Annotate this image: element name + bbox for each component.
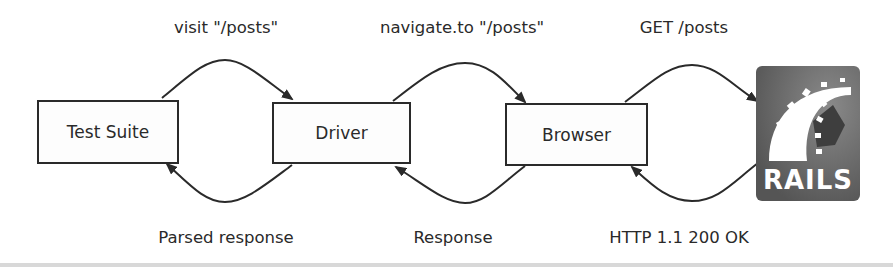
- bottom-divider: [0, 263, 893, 267]
- node-browser-label: Browser: [542, 125, 611, 145]
- arrow-http-ok: [632, 163, 758, 201]
- node-browser: Browser: [505, 103, 648, 166]
- edge-label-response: Response: [413, 228, 492, 247]
- edge-label-http-ok: HTTP 1.1 200 OK: [609, 228, 749, 247]
- arrow-visit: [162, 60, 292, 99]
- arrow-response: [396, 166, 525, 203]
- edge-label-navigate: navigate.to "/posts": [380, 18, 544, 37]
- rails-logo: RAILS: [755, 65, 861, 202]
- node-driver: Driver: [272, 102, 411, 164]
- svg-text:RAILS: RAILS: [763, 165, 853, 195]
- edge-label-parsed-response: Parsed response: [158, 228, 294, 247]
- rails-logo-icon: RAILS: [755, 65, 861, 202]
- arrow-navigate: [393, 63, 525, 102]
- edge-label-get: GET /posts: [640, 18, 728, 37]
- arrow-get: [625, 65, 757, 102]
- node-test-suite-label: Test Suite: [67, 122, 149, 142]
- node-test-suite: Test Suite: [37, 100, 179, 164]
- node-driver-label: Driver: [315, 123, 367, 143]
- edge-label-visit: visit "/posts": [174, 18, 278, 37]
- arrow-parsed-response: [167, 164, 292, 202]
